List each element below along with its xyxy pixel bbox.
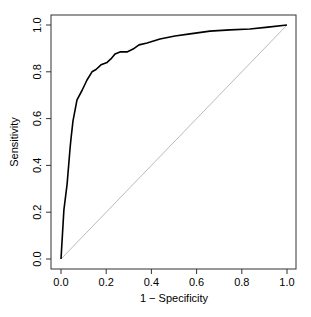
y-axis-title: Sensitivity (8, 117, 20, 167)
y-tick-label: 1.0 (31, 17, 43, 32)
y-tick-label: 0.0 (31, 251, 43, 266)
diagonal-reference-line (61, 25, 287, 259)
x-tick-label: 1.0 (279, 276, 294, 288)
x-axis: 0.00.20.40.60.81.0 (53, 269, 294, 288)
x-tick-label: 0.2 (99, 276, 114, 288)
x-axis-title: 1 − Specificity (140, 292, 209, 304)
x-tick-label: 0.0 (53, 276, 68, 288)
y-tick-label: 0.2 (31, 205, 43, 220)
roc-chart: 0.00.20.40.60.81.0 0.00.20.40.60.81.0 1 … (0, 0, 311, 317)
x-tick-label: 0.4 (144, 276, 159, 288)
y-tick-label: 0.4 (31, 158, 43, 173)
y-tick-label: 0.8 (31, 64, 43, 79)
y-axis: 0.00.20.40.60.81.0 (31, 17, 51, 266)
x-tick-label: 0.8 (234, 276, 249, 288)
y-tick-label: 0.6 (31, 111, 43, 126)
x-tick-label: 0.6 (189, 276, 204, 288)
